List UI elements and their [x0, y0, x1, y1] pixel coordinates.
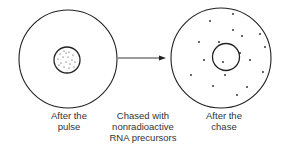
label-after-pulse: After the pulse — [40, 110, 98, 132]
label-line: After the — [195, 110, 253, 121]
right-cytoplasm-dots — [190, 13, 266, 96]
left-cell — [19, 10, 117, 108]
label-chased-with: Chased with nonradioactive RNA precursor… — [107, 110, 179, 143]
left-nucleus-dots — [57, 50, 75, 68]
label-after-chase: After the chase — [195, 110, 253, 132]
label-line: chase — [195, 121, 253, 132]
label-line: nonradioactive — [107, 121, 179, 132]
label-line: Chased with — [107, 110, 179, 121]
left-nucleus — [54, 47, 80, 73]
label-line: RNA precursors — [107, 132, 179, 143]
right-nucleus — [213, 44, 240, 71]
label-line: pulse — [40, 121, 98, 132]
right-cell — [171, 8, 271, 108]
label-line: After the — [40, 110, 98, 121]
arrow-icon — [118, 56, 166, 61]
